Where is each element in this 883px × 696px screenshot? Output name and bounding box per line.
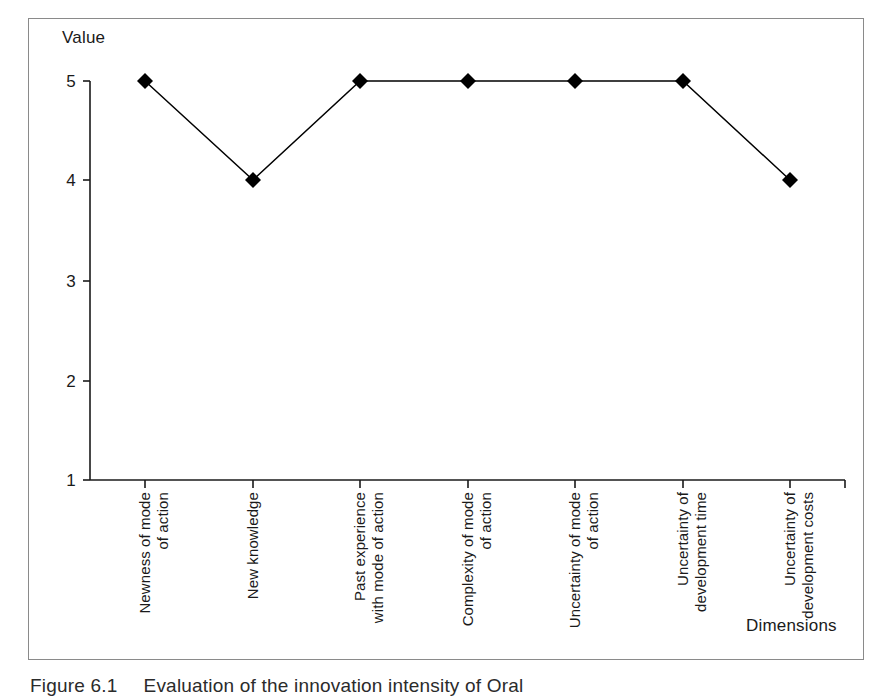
y-tick-label-4: 4 bbox=[52, 172, 76, 189]
x-tick-label-newness-of-mode-of-action: Newness of mode of action bbox=[136, 492, 176, 642]
x-tick-label-uncertainty-of-development-time: Uncertainty of development time bbox=[674, 492, 714, 642]
x-tick-label-past-experience-with-mode-of-action: Past experience with mode of action bbox=[351, 492, 391, 642]
figure-caption-text: Evaluation of the innovation intensity o… bbox=[144, 675, 524, 696]
y-axis-title: Value bbox=[62, 28, 105, 48]
x-tick-label-uncertainty-of-development-costs: Uncertainty of development costs bbox=[781, 492, 821, 642]
x-tick-label-complexity-of-mode-of-action: Complexity of mode of action bbox=[459, 492, 499, 642]
y-tick-label-3: 3 bbox=[52, 273, 76, 290]
y-tick-label-1: 1 bbox=[52, 472, 76, 489]
y-tick-label-5: 5 bbox=[52, 73, 76, 90]
figure-caption-number: Figure 6.1 bbox=[30, 675, 118, 696]
y-tick-label-2: 2 bbox=[52, 373, 76, 390]
figure-caption: Figure 6.1Evaluation of the innovation i… bbox=[30, 674, 860, 696]
x-tick-label-new-knowledge: New knowledge bbox=[244, 492, 284, 642]
x-tick-label-uncertainty-of-mode-of-action: Uncertainty of mode of action bbox=[566, 492, 606, 642]
